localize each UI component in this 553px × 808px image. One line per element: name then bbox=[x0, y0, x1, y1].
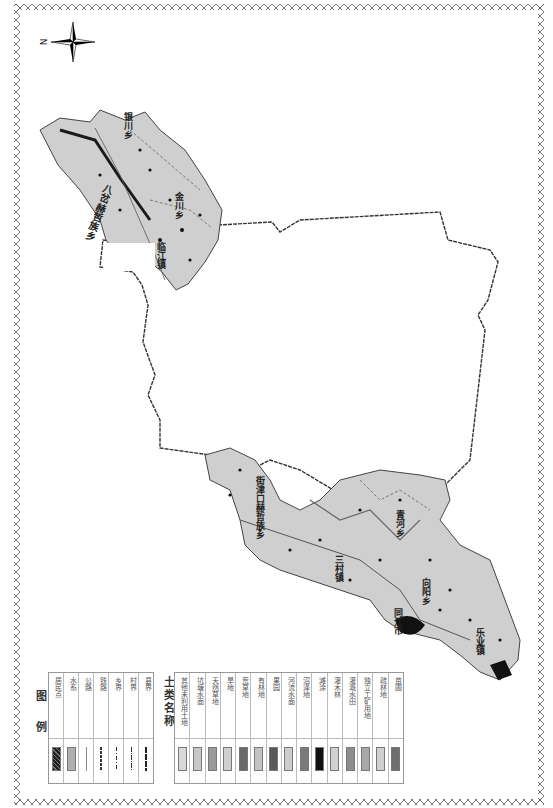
legend-item: 苗圃 bbox=[389, 673, 403, 783]
settlement-swatch bbox=[52, 747, 61, 771]
legend-label: 滩涂 bbox=[312, 673, 326, 739]
highway-line-icon bbox=[86, 747, 87, 771]
legend-label: 苗圃 bbox=[389, 673, 403, 739]
label-tongjiang: 同江市 bbox=[392, 608, 405, 635]
legend-item: 天然草地 bbox=[206, 673, 221, 783]
label-yinchuan: 银川乡 bbox=[122, 112, 135, 139]
legend-item: 灌溉水田 bbox=[343, 673, 358, 783]
legend-item: 独立工矿用地 bbox=[358, 673, 373, 783]
legend-label: 有林地 bbox=[251, 673, 265, 739]
label-linjiang: 临江镇 bbox=[155, 242, 168, 269]
legend-label: 荒草地 bbox=[236, 673, 250, 739]
railway-line-icon bbox=[100, 747, 102, 771]
north-label: N bbox=[39, 39, 49, 46]
legend-item: 滩涂 bbox=[312, 673, 327, 783]
label-qinghe: 青河乡 bbox=[394, 510, 407, 537]
township-boundary-icon bbox=[116, 747, 117, 771]
label-xiangyang: 向阳乡 bbox=[420, 578, 433, 605]
legend-label: 疏林地 bbox=[373, 673, 387, 739]
water-swatch bbox=[67, 747, 76, 771]
label-leye: 乐业镇 bbox=[474, 628, 487, 655]
legend-label: 县界 bbox=[139, 673, 153, 739]
legend-item: 沼泽地 bbox=[297, 673, 312, 783]
legend-label: 独立工矿用地 bbox=[358, 673, 372, 739]
legend-item: 灌木林 bbox=[328, 673, 343, 783]
landuse-swatch bbox=[193, 747, 202, 771]
landuse-swatch bbox=[269, 747, 278, 771]
north-arrow-icon bbox=[51, 22, 95, 62]
legend-label: 乡界 bbox=[109, 673, 123, 739]
legend-label: 灌木林 bbox=[328, 673, 342, 739]
legend-label: 坑塘水面 bbox=[190, 673, 204, 739]
legend-label: 水系 bbox=[64, 673, 78, 739]
landuse-swatch bbox=[315, 747, 324, 771]
region-south bbox=[205, 448, 520, 680]
legend-item: 村界 bbox=[124, 673, 139, 783]
landuse-swatch bbox=[284, 747, 293, 771]
legend-landuse: 其他未利用土地坑塘水面天然草地旱地荒草地有林地果园河流水面沼泽地滩涂灌木林灌溉水… bbox=[174, 672, 404, 784]
landuse-swatch bbox=[254, 747, 263, 771]
legend-label: 居民点 bbox=[49, 673, 63, 739]
landuse-swatch bbox=[178, 747, 187, 771]
legend-label: 河流水面 bbox=[282, 673, 296, 739]
legend-item: 铁路 bbox=[94, 673, 109, 783]
legend-symbols-title: 图 例 bbox=[32, 690, 48, 740]
label-sancun: 三村镇 bbox=[333, 555, 346, 582]
blank-area bbox=[103, 243, 155, 271]
legend-item: 旱地 bbox=[221, 673, 236, 783]
legend-label: 其他未利用土地 bbox=[175, 673, 189, 739]
landuse-swatch bbox=[223, 747, 232, 771]
landuse-swatch bbox=[376, 747, 385, 771]
village-boundary-icon bbox=[131, 747, 132, 771]
legend-item: 果园 bbox=[267, 673, 282, 783]
legend-label: 天然草地 bbox=[206, 673, 220, 739]
legend-label: 沼泽地 bbox=[297, 673, 311, 739]
county-boundary-icon bbox=[145, 747, 147, 771]
landuse-swatch bbox=[361, 747, 370, 771]
legend-item: 水系 bbox=[64, 673, 79, 783]
landuse-swatch bbox=[330, 747, 339, 771]
legend-label: 村界 bbox=[124, 673, 138, 739]
legend-item: 河流水面 bbox=[282, 673, 297, 783]
landuse-swatch bbox=[208, 747, 217, 771]
legend-item: 有林地 bbox=[251, 673, 266, 783]
legend-item: 公路 bbox=[79, 673, 94, 783]
legend-label: 果园 bbox=[267, 673, 281, 739]
landuse-swatch bbox=[239, 747, 248, 771]
landuse-swatch bbox=[346, 747, 355, 771]
legend-label: 公路 bbox=[79, 673, 93, 739]
landuse-swatch bbox=[300, 747, 309, 771]
legend-item: 其他未利用土地 bbox=[175, 673, 190, 783]
label-jiejinkou: 街津口赫哲族乡 bbox=[254, 476, 267, 539]
legend-item: 荒草地 bbox=[236, 673, 251, 783]
legend-item: 疏林地 bbox=[373, 673, 388, 783]
legend-label: 灌溉水田 bbox=[343, 673, 357, 739]
legend-symbols: 居民点 水系 公路 铁路 乡界 村界 县界 bbox=[48, 672, 154, 784]
label-jinchuan: 金川乡 bbox=[173, 192, 186, 219]
legend-item: 县界 bbox=[139, 673, 153, 783]
legend-item: 坑塘水面 bbox=[190, 673, 205, 783]
legend-label: 铁路 bbox=[94, 673, 108, 739]
legend-item: 居民点 bbox=[49, 673, 64, 783]
legend-label: 旱地 bbox=[221, 673, 235, 739]
legend-item: 乡界 bbox=[109, 673, 124, 783]
landuse-swatch bbox=[391, 747, 400, 771]
